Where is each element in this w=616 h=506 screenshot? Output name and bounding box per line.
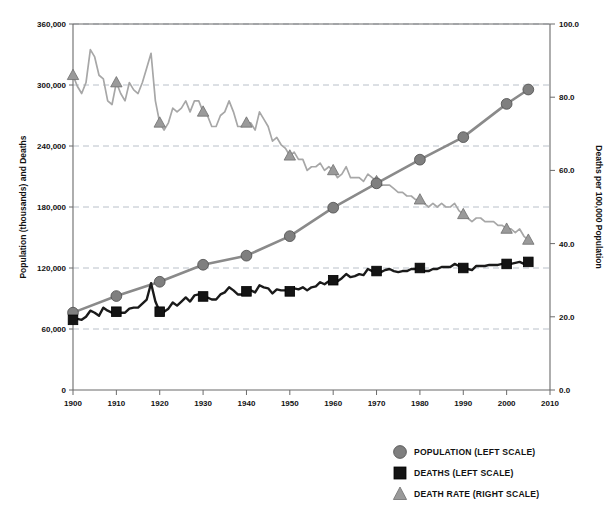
svg-text:1900: 1900	[64, 399, 82, 408]
marker-circle-1910	[111, 291, 122, 302]
death-rate-population-chart: 060,000120,000180,000240,000300,000360,0…	[0, 0, 616, 506]
marker-square-1960	[328, 275, 338, 285]
grid-lines	[73, 24, 550, 329]
legend-label: POPULATION (LEFT SCALE)	[414, 447, 535, 457]
marker-circle-2005	[523, 84, 534, 95]
legend-label: DEATH RATE (RIGHT SCALE)	[414, 489, 539, 499]
chart-canvas: 060,000120,000180,000240,000300,000360,0…	[0, 0, 616, 506]
series-square	[68, 257, 533, 325]
y2-axis-title: Deaths per 100,000 Population	[594, 145, 604, 268]
svg-text:40.0: 40.0	[559, 240, 575, 249]
data-series	[67, 50, 534, 325]
marker-circle-1970	[371, 178, 382, 189]
legend-circle-icon	[394, 446, 407, 459]
svg-text:360,000: 360,000	[37, 20, 66, 29]
svg-text:1940: 1940	[238, 399, 256, 408]
svg-text:2010: 2010	[541, 399, 559, 408]
svg-text:1980: 1980	[411, 399, 429, 408]
legend-item-1: DEATHS (LEFT SCALE)	[394, 467, 514, 479]
marker-square-2005	[524, 257, 534, 267]
marker-circle-1920	[154, 276, 165, 287]
marker-circle-1930	[198, 259, 209, 270]
marker-circle-1940	[241, 250, 252, 261]
marker-square-1930	[198, 292, 208, 302]
marker-square-2000	[502, 259, 512, 269]
legend-square-icon	[394, 467, 406, 479]
svg-text:0: 0	[62, 386, 67, 395]
svg-text:1990: 1990	[454, 399, 472, 408]
legend-label: DEATHS (LEFT SCALE)	[414, 468, 514, 478]
marker-circle-2000	[501, 98, 512, 109]
marker-square-1970	[372, 266, 382, 276]
svg-text:80.0: 80.0	[559, 93, 575, 102]
svg-text:300,000: 300,000	[37, 81, 66, 90]
marker-square-1940	[242, 287, 252, 297]
legend-item-0: POPULATION (LEFT SCALE)	[394, 446, 536, 459]
svg-text:1930: 1930	[194, 399, 212, 408]
svg-text:2000: 2000	[498, 399, 516, 408]
marker-circle-1990	[458, 132, 469, 143]
marker-triangle-1950	[284, 150, 295, 160]
marker-triangle-1900	[67, 69, 78, 79]
chart-legend: POPULATION (LEFT SCALE)DEATHS (LEFT SCAL…	[393, 446, 539, 500]
svg-text:20.0: 20.0	[559, 313, 575, 322]
y-axis-title: Population (thousands) and Deaths	[18, 135, 28, 278]
marker-square-1910	[112, 307, 122, 317]
marker-square-1980	[415, 263, 425, 273]
marker-square-1900	[68, 315, 78, 325]
marker-circle-1950	[284, 231, 295, 242]
legend-item-2: DEATH RATE (RIGHT SCALE)	[393, 487, 539, 500]
marker-triangle-1930	[197, 106, 208, 116]
svg-text:180,000: 180,000	[37, 203, 66, 212]
legend-triangle-icon	[393, 487, 406, 500]
svg-text:240,000: 240,000	[37, 142, 66, 151]
marker-circle-1960	[328, 202, 339, 213]
marker-square-1990	[458, 263, 468, 273]
svg-text:1910: 1910	[107, 399, 125, 408]
svg-text:0.0: 0.0	[559, 386, 571, 395]
svg-text:1920: 1920	[151, 399, 169, 408]
marker-triangle-1920	[154, 117, 165, 127]
axes	[69, 24, 555, 395]
marker-square-1920	[155, 307, 165, 317]
svg-text:1950: 1950	[281, 399, 299, 408]
marker-triangle-1910	[111, 77, 122, 87]
marker-circle-1980	[415, 154, 426, 165]
svg-text:60,000: 60,000	[42, 325, 67, 334]
svg-text:1970: 1970	[368, 399, 386, 408]
svg-text:60.0: 60.0	[559, 166, 575, 175]
marker-triangle-1960	[327, 164, 338, 174]
svg-text:100.0: 100.0	[559, 20, 580, 29]
marker-square-1950	[285, 287, 295, 297]
svg-text:120,000: 120,000	[37, 264, 66, 273]
series-triangle	[67, 50, 534, 245]
series-circle	[68, 84, 534, 318]
svg-text:1960: 1960	[324, 399, 342, 408]
tick-labels: 060,000120,000180,000240,000300,000360,0…	[37, 20, 579, 408]
